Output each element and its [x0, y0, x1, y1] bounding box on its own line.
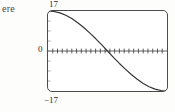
figure-screenshot: ere 17 0 −17 — [0, 0, 175, 112]
y-axis-zero-label: 0 — [38, 45, 43, 54]
plot-canvas — [48, 11, 167, 91]
y-axis-max-label: 17 — [49, 0, 58, 9]
margin-text: ere — [2, 3, 15, 14]
y-axis-ticks — [48, 21, 51, 81]
y-axis-min-label: −17 — [44, 96, 58, 105]
plot-frame — [47, 10, 168, 92]
